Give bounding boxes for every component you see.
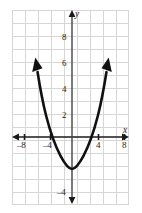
x-tick-label-neg4: –4 — [43, 141, 52, 150]
graph-figure: –8 –4 4 8 8 6 4 2 –4 x y — [0, 0, 142, 213]
y-axis-label: y — [75, 10, 79, 20]
y-tick-label-6: 6 — [62, 59, 66, 68]
x-tick-label-4: 4 — [96, 141, 100, 150]
coordinate-plane — [12, 10, 129, 205]
y-tick-label-neg4: –4 — [57, 188, 66, 197]
y-tick-label-8: 8 — [62, 33, 66, 42]
x-tick-label-neg8: –8 — [17, 141, 26, 150]
parabola-arrow-right — [102, 58, 112, 73]
parabola-curve — [12, 10, 129, 205]
parabola-path — [38, 72, 107, 169]
parabola-arrow-left — [32, 58, 42, 73]
y-tick-label-2: 2 — [62, 111, 66, 120]
x-tick-label-8: 8 — [122, 141, 126, 150]
x-axis-label: x — [123, 126, 127, 136]
y-tick-label-4: 4 — [62, 85, 66, 94]
